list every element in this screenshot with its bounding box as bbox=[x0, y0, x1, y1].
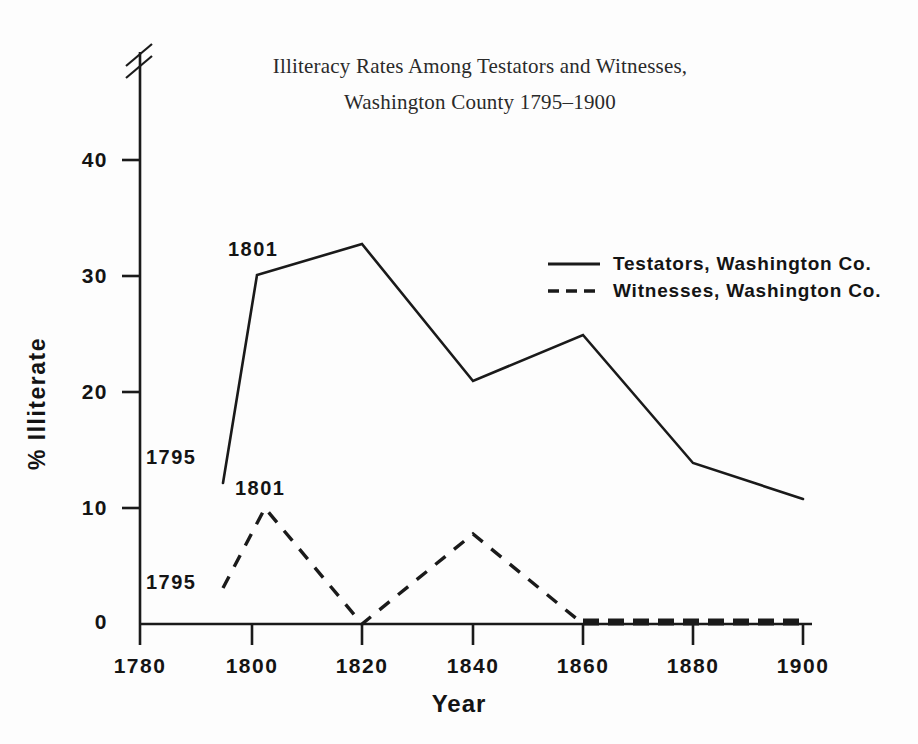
annotation-testators-1795: 1795 bbox=[146, 446, 197, 469]
y-tick-label-40: 40 bbox=[48, 148, 108, 172]
y-axis-title: % Illiterate bbox=[24, 304, 51, 504]
x-axis-title: Year bbox=[0, 690, 918, 718]
y-tick-label-10: 10 bbox=[48, 496, 108, 520]
legend-swatch-dashed-line-icon bbox=[548, 284, 600, 298]
plot-canvas bbox=[0, 0, 918, 744]
legend-item-testators: Testators, Washington Co. bbox=[548, 250, 888, 277]
x-tick-label-1860: 1860 bbox=[538, 654, 628, 678]
y-tick-label-20: 20 bbox=[48, 380, 108, 404]
chart-figure: Illiteracy Rates Among Testators and Wit… bbox=[0, 0, 918, 744]
x-tick-label-1880: 1880 bbox=[648, 654, 738, 678]
x-tick-label-1900: 1900 bbox=[758, 654, 848, 678]
chart-legend: Testators, Washington Co. Witnesses, Was… bbox=[548, 250, 888, 304]
series-line-witnesses bbox=[223, 508, 583, 624]
x-axis-ticks bbox=[140, 624, 803, 645]
annotation-witnesses-1795: 1795 bbox=[146, 571, 197, 594]
legend-label-witnesses: Witnesses, Washington Co. bbox=[613, 280, 881, 302]
x-tick-label-1780: 1780 bbox=[95, 654, 185, 678]
legend-item-witnesses: Witnesses, Washington Co. bbox=[548, 277, 888, 304]
y-tick-label-0: 0 bbox=[48, 610, 108, 634]
legend-label-testators: Testators, Washington Co. bbox=[613, 253, 872, 275]
x-tick-label-1820: 1820 bbox=[317, 654, 407, 678]
x-tick-label-1840: 1840 bbox=[428, 654, 518, 678]
annotation-testators-1801: 1801 bbox=[228, 238, 279, 261]
legend-swatch-solid-line-icon bbox=[548, 257, 600, 271]
y-tick-label-30: 30 bbox=[48, 264, 108, 288]
y-axis-ticks bbox=[122, 160, 140, 508]
x-tick-label-1800: 1800 bbox=[207, 654, 297, 678]
annotation-witnesses-1801: 1801 bbox=[235, 477, 286, 500]
